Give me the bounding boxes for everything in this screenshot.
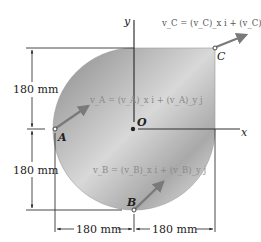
point-a-label: A: [57, 131, 67, 144]
velocity-label-b: v_B = (v_B)_x i + (v_B)_y j: [92, 165, 206, 176]
point-b-label: B: [126, 196, 136, 209]
dim-label-left-lower: 180 mm: [13, 164, 59, 177]
point-a-marker: [53, 127, 57, 131]
origin-point: [131, 127, 135, 131]
x-axis-label: x: [241, 126, 248, 139]
kinematics-diagram: y x O 180 mm 180 mm 180 mm 180 mm A B C …: [0, 0, 261, 242]
dim-label-bottom-left: 180 mm: [76, 223, 122, 236]
velocity-label-a: v_A = (v_A)_x i + (v_A)_y j: [89, 95, 203, 106]
point-c-label: C: [217, 50, 226, 63]
velocity-arrow-c: [216, 35, 246, 47]
velocity-label-c: v_C = (v_C)_x i + (v_C)_y j: [161, 18, 261, 29]
dim-label-left-upper: 180 mm: [13, 83, 59, 96]
y-axis-label: y: [123, 15, 131, 28]
dim-label-bottom-right: 180 mm: [152, 223, 198, 236]
origin-label: O: [137, 116, 147, 129]
